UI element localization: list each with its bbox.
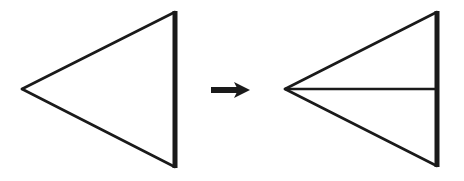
- diagram-canvas: Triangle with a thick vertical edge tran…: [0, 0, 464, 181]
- left-triangle-lower-edge: [22, 89, 175, 167]
- left-triangle: original triangle: [22, 11, 175, 168]
- arrow-icon: transforms into: [211, 82, 250, 98]
- left-triangle-upper-edge: [22, 12, 175, 89]
- right-triangle: triangle with median: [285, 11, 437, 167]
- right-triangle-lower-edge: [285, 89, 437, 166]
- diagram-svg: original triangle transforms into triang…: [0, 0, 464, 181]
- right-triangle-upper-edge: [285, 12, 437, 89]
